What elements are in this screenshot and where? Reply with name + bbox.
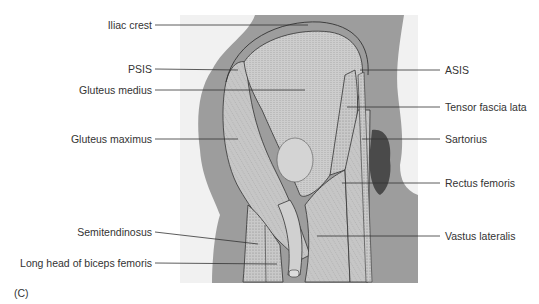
label-asis: ASIS [445,64,469,76]
label-semitendinosus: Semitendinosus [77,226,152,238]
panel-label: (C) [14,287,29,299]
label-tensor-fascia-lata: Tensor fascia lata [445,101,527,113]
label-gluteus-maximus: Gluteus maximus [71,133,152,145]
label-gluteus-medius: Gluteus medius [79,84,152,96]
label-vastus-lateralis: Vastus lateralis [445,230,515,242]
label-psis: PSIS [128,63,152,75]
label-rectus-femoris: Rectus femoris [445,177,515,189]
label-long-head-biceps-femoris: Long head of biceps femoris [20,257,152,269]
label-iliac-crest: Iliac crest [108,19,152,31]
label-sartorius: Sartorius [445,133,487,145]
